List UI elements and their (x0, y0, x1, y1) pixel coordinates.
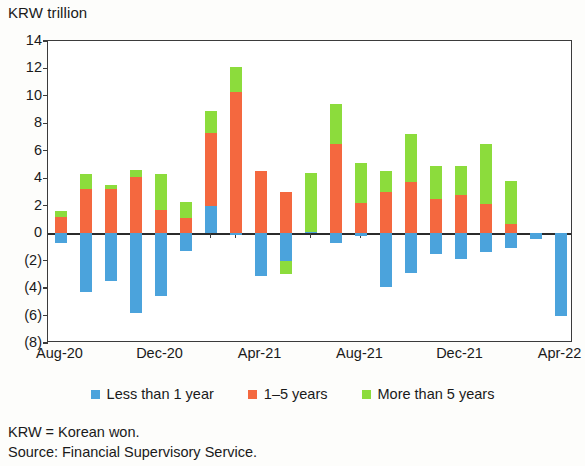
y-tick-label: 10 (26, 87, 42, 103)
bar-segment (555, 233, 567, 315)
bar-segment (230, 233, 242, 234)
x-tick-label: Dec-20 (136, 345, 183, 361)
y-tick-mark (43, 315, 48, 316)
bar-segment (380, 171, 392, 192)
y-tick-label: 14 (26, 32, 42, 48)
legend-swatch-icon (248, 390, 257, 399)
bar-segment (255, 171, 267, 233)
bar-segment (130, 170, 142, 177)
bar-segment (505, 233, 517, 248)
y-tick-label: (4) (24, 279, 42, 295)
legend-label: Less than 1 year (107, 386, 214, 402)
bar-segment (205, 206, 217, 233)
bar-group (205, 41, 217, 343)
bar-segment (330, 233, 342, 243)
bar-group (405, 41, 417, 343)
bar-group (180, 41, 192, 343)
bar-segment (280, 192, 292, 233)
x-axis-labels: Aug-20Dec-20Apr-21Aug-21Dec-21Apr-22 (0, 345, 585, 369)
bar-group (505, 41, 517, 343)
legend-label: More than 5 years (378, 386, 495, 402)
bar-segment (205, 111, 217, 133)
legend-item: More than 5 years (362, 386, 495, 402)
bar-segment (180, 233, 192, 251)
y-tick-label: (2) (24, 252, 42, 268)
y-tick-mark (43, 40, 48, 41)
bar-segment (330, 104, 342, 144)
bar-segment (105, 233, 117, 281)
y-tick-mark (43, 68, 48, 69)
bar-group (230, 41, 242, 343)
bar-segment (155, 233, 167, 296)
bar-segment (355, 203, 367, 233)
y-axis-labels: 14121086420(2)(4)(6)(8) (0, 40, 44, 342)
bar-segment (505, 224, 517, 234)
bar-segment (80, 189, 92, 233)
bar-segment (105, 185, 117, 189)
y-tick-label: 8 (34, 114, 42, 130)
legend-label: 1–5 years (264, 386, 328, 402)
y-tick-label: (6) (24, 307, 42, 323)
plot-area (47, 40, 572, 342)
y-tick-mark (43, 150, 48, 151)
bar-segment (380, 192, 392, 233)
bar-segment (355, 233, 367, 236)
bar-segment (455, 233, 467, 259)
bar-segment (230, 92, 242, 233)
bar-segment (180, 202, 192, 218)
bar-segment (230, 67, 242, 92)
y-tick-mark (43, 342, 48, 343)
bar-segment (255, 233, 267, 276)
bar-segment (55, 211, 67, 216)
y-tick-label: 0 (34, 224, 42, 240)
bar-segment (505, 181, 517, 224)
x-tick-label: Apr-21 (238, 345, 282, 361)
x-tick-label: Aug-20 (36, 345, 83, 361)
bar-segment (430, 233, 442, 254)
bar-segment (55, 217, 67, 233)
bar-group (380, 41, 392, 343)
bar-segment (380, 233, 392, 287)
y-tick-mark (43, 178, 48, 179)
x-tick-label: Dec-21 (436, 345, 483, 361)
bar-segment (130, 177, 142, 233)
bar-segment (405, 182, 417, 233)
legend-swatch-icon (362, 390, 371, 399)
note-abbreviation: KRW = Korean won. (8, 422, 257, 442)
y-tick-label: 4 (34, 169, 42, 185)
bar-group (480, 41, 492, 343)
y-tick-mark (43, 95, 48, 96)
bar-group (80, 41, 92, 343)
bar-segment (480, 144, 492, 204)
bar-segment (480, 204, 492, 233)
bar-group (105, 41, 117, 343)
y-tick-label: 2 (34, 197, 42, 213)
y-tick-mark (43, 287, 48, 288)
legend-swatch-icon (91, 390, 100, 399)
x-tick-label: Apr-22 (538, 345, 582, 361)
axis-unit-label: KRW trillion (8, 4, 87, 21)
bar-group (55, 41, 67, 343)
bar-segment (405, 233, 417, 273)
bar-segment (530, 233, 542, 238)
bar-group (155, 41, 167, 343)
bar-segment (205, 133, 217, 206)
bar-segment (55, 233, 67, 243)
bar-group (130, 41, 142, 343)
bar-segment (80, 174, 92, 189)
bar-segment (305, 173, 317, 232)
y-tick-label: 6 (34, 142, 42, 158)
chart-legend: Less than 1 year1–5 yearsMore than 5 yea… (0, 386, 585, 402)
bar-group (330, 41, 342, 343)
bar-segment (405, 134, 417, 182)
bar-segment (330, 144, 342, 233)
y-tick-label: 12 (26, 59, 42, 75)
bar-segment (155, 210, 167, 233)
y-tick-mark (43, 205, 48, 206)
bar-group (255, 41, 267, 343)
bar-segment (355, 163, 367, 203)
y-tick-mark (43, 123, 48, 124)
bar-group (305, 41, 317, 343)
bar-group (430, 41, 442, 343)
bar-segment (155, 174, 167, 210)
